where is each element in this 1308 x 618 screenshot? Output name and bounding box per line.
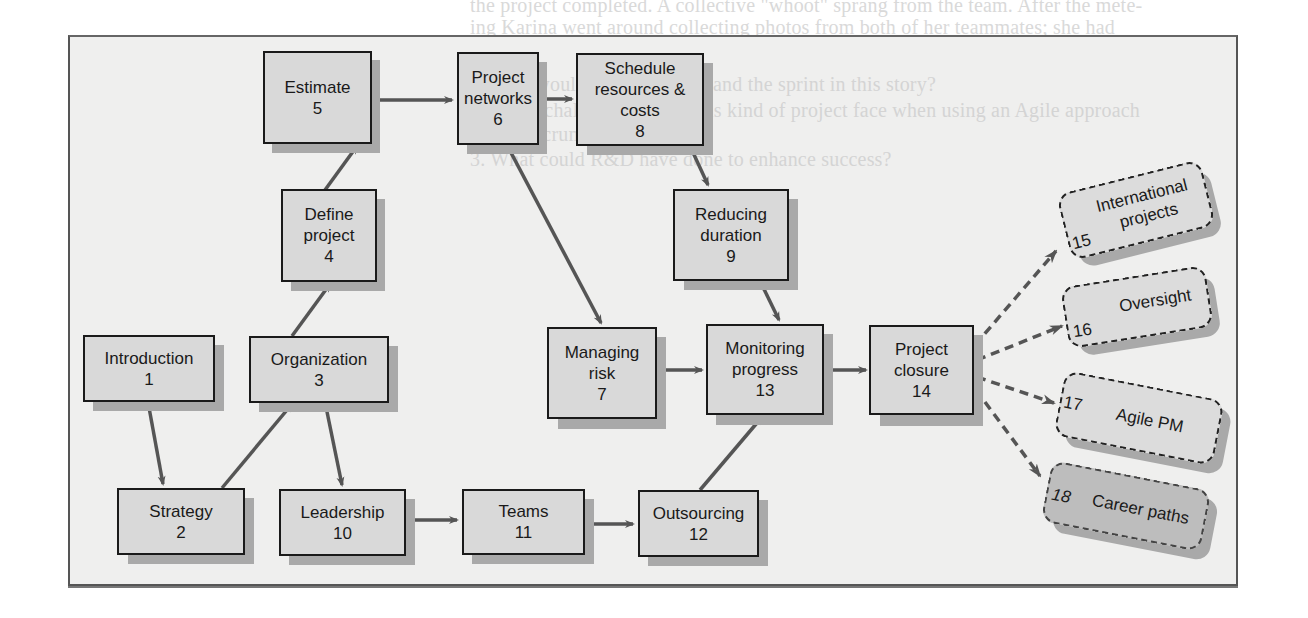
node-label-line2: closure	[894, 360, 949, 381]
node-label-line2: risk	[589, 363, 615, 384]
node-number: 1	[144, 369, 153, 390]
node-organization: Organization 3	[249, 336, 389, 403]
node-number: 10	[333, 523, 352, 544]
node-teams: Teams 11	[462, 489, 585, 555]
node-label: Estimate	[284, 77, 350, 98]
node-number: 2	[176, 522, 185, 543]
node-number: 14	[912, 381, 931, 402]
node-define-project: Define project 4	[281, 189, 377, 282]
node-number: 3	[314, 370, 323, 391]
node-estimate: Estimate 5	[263, 51, 372, 144]
node-schedule-resources-costs: Schedule resources & costs 8	[576, 53, 704, 146]
node-label: Career paths	[1080, 489, 1202, 532]
node-number: 11	[515, 522, 533, 543]
node-label-line1: Project	[472, 67, 525, 88]
node-introduction: Introduction 1	[83, 335, 215, 402]
node-number: 13	[756, 380, 775, 401]
node-leadership: Leadership 10	[279, 489, 406, 556]
node-label: Agile PM	[1099, 402, 1201, 441]
node-number: 4	[324, 246, 333, 267]
node-label: Teams	[498, 501, 548, 522]
node-label: Leadership	[300, 502, 384, 523]
node-number: 17	[1062, 393, 1084, 416]
node-managing-risk: Managing risk 7	[547, 327, 657, 419]
node-outsourcing: Outsourcing 12	[638, 490, 759, 557]
node-label: Oversight	[1104, 283, 1206, 318]
node-monitoring-progress: Monitoring progress 13	[706, 324, 824, 415]
node-project-closure: Project closure 14	[869, 325, 974, 415]
node-label-line2: duration	[700, 225, 761, 246]
node-label: Outsourcing	[653, 503, 745, 524]
node-label-line1: Define	[304, 204, 353, 225]
node-number: 8	[635, 121, 644, 142]
node-label-line2: progress	[732, 359, 798, 380]
node-label: Introduction	[105, 348, 194, 369]
node-label-line1: Managing	[565, 342, 640, 363]
node-number: 7	[597, 384, 606, 405]
node-label: Strategy	[149, 501, 212, 522]
node-label: Organization	[271, 349, 367, 370]
node-label-line1: Project	[895, 339, 948, 360]
node-number: 18	[1050, 485, 1072, 508]
node-number: 15	[1070, 230, 1093, 254]
node-label-line1: Schedule	[605, 58, 676, 79]
node-label-line2: resources & costs	[578, 79, 702, 121]
node-number: 5	[313, 98, 322, 119]
node-number: 9	[726, 246, 735, 267]
node-label-line2: networks	[464, 88, 532, 109]
node-label-line1: Reducing	[695, 204, 767, 225]
node-reducing-duration: Reducing duration 9	[673, 189, 789, 281]
node-number: 6	[493, 109, 502, 130]
node-number: 16	[1072, 319, 1094, 342]
node-label-line1: Monitoring	[725, 338, 804, 359]
node-label-line2: project	[303, 225, 354, 246]
node-strategy: Strategy 2	[117, 488, 245, 555]
node-number: 12	[689, 524, 708, 545]
node-project-networks: Project networks 6	[457, 52, 539, 145]
